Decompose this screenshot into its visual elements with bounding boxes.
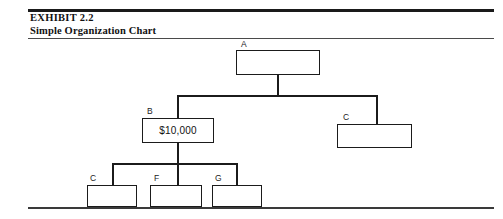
node-label-g: G (215, 174, 222, 183)
node-box-f[interactable] (150, 185, 202, 207)
connector-level1-bar (177, 95, 378, 97)
connector-to-c1 (376, 95, 378, 124)
node-label-c2: C (90, 174, 96, 183)
connector-to-c2 (112, 163, 114, 185)
connector-to-b (177, 95, 179, 118)
node-box-g[interactable] (212, 185, 262, 207)
node-label-f: F (154, 174, 159, 183)
node-label-b: B (147, 107, 153, 116)
connector-b-stem (177, 143, 179, 164)
node-label-c1: C (343, 113, 349, 122)
node-box-a[interactable] (236, 50, 320, 75)
node-box-c2[interactable] (87, 185, 137, 207)
organization-chart: A B $10,000 C C F G (0, 0, 503, 219)
node-value-b: $10,000 (159, 125, 197, 136)
connector-to-f (177, 163, 179, 185)
exhibit-page: EXHIBIT 2.2 Simple Organization Chart A … (0, 0, 503, 219)
node-label-a: A (241, 40, 247, 49)
connector-to-g (236, 163, 238, 185)
connector-level2-bar (112, 163, 238, 165)
node-box-c1[interactable] (337, 124, 412, 148)
node-box-b[interactable]: $10,000 (142, 118, 214, 143)
connector-a-stem (277, 75, 279, 96)
rule-bottom (28, 207, 494, 209)
